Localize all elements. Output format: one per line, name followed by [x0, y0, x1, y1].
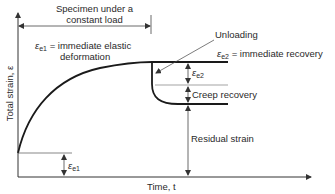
x-axis-label: Time, t — [147, 181, 176, 192]
eps-e2-definition: εe2 = immediate recovery — [217, 48, 323, 62]
unloading-leader — [156, 40, 214, 73]
y-axis-label: Total strain, ε — [4, 59, 15, 129]
load-span-label: Specimen under a constant load — [47, 3, 142, 25]
residual-strain-label: Residual strain — [191, 133, 254, 144]
creep-recovery-label: Creep recovery — [192, 89, 257, 100]
eps-e2-label: εe2 — [192, 67, 204, 81]
eps-e1-definition-line2: deformation — [60, 51, 110, 62]
unloading-label: Unloading — [215, 29, 258, 40]
diagram-canvas — [0, 0, 335, 194]
eps-e1-label: εe1 — [68, 160, 80, 174]
